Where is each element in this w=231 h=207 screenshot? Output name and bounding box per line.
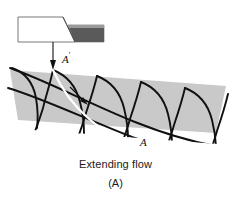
tool-light-face — [18, 17, 75, 42]
label-a-prime-text: A — [62, 53, 69, 65]
prime-mark: ′ — [69, 51, 71, 60]
inlet-arrow — [50, 42, 56, 70]
figure-caption-sub: (A) — [0, 177, 231, 189]
label-a-prime: A′ — [62, 51, 70, 65]
forming-tool — [18, 17, 104, 42]
deformation-zone-band — [10, 70, 226, 133]
label-a: A — [140, 136, 147, 148]
band-fill — [10, 70, 226, 133]
extending-flow-figure: A′ A Extending flow (A) — [0, 0, 231, 207]
tool-dark-top-sliver — [68, 25, 104, 28]
figure-caption-main: Extending flow — [0, 158, 231, 170]
figure-artwork — [0, 0, 231, 207]
